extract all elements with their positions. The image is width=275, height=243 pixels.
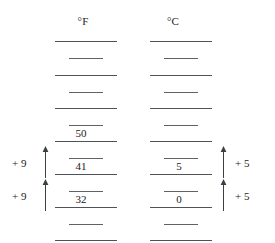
tick-major-celsius-2 [150, 108, 212, 109]
tick-major-fahrenheit-6 [55, 240, 117, 241]
step-label-left-1: + 9 [12, 191, 26, 202]
tick-minor-fahrenheit-3 [69, 158, 103, 159]
step-arrow-right-0 [219, 146, 228, 178]
tick-major-celsius-5 [150, 207, 212, 208]
value-label-fahrenheit-41: 41 [61, 161, 101, 172]
step-arrow-left-0 [41, 146, 50, 178]
tick-minor-celsius-4 [164, 191, 198, 192]
tick-minor-celsius-0 [164, 58, 198, 59]
tick-minor-fahrenheit-0 [69, 58, 103, 59]
tick-major-fahrenheit-5 [55, 207, 117, 208]
tick-major-celsius-3 [150, 141, 212, 142]
tick-minor-fahrenheit-4 [69, 191, 103, 192]
value-label-fahrenheit-50: 50 [61, 128, 101, 139]
tick-minor-celsius-1 [164, 92, 198, 93]
value-label-celsius-5: 5 [159, 161, 199, 172]
step-label-right-0: + 5 [235, 158, 249, 169]
step-arrow-left-1 [41, 179, 50, 211]
tick-major-fahrenheit-1 [55, 75, 117, 76]
tick-major-celsius-0 [150, 41, 212, 42]
tick-minor-fahrenheit-2 [69, 125, 103, 126]
tick-minor-celsius-3 [164, 158, 198, 159]
column-header-celsius: °C [163, 16, 183, 27]
step-label-left-0: + 9 [12, 158, 26, 169]
temperature-scale-figure: °F504132°C50+ 9+ 9+ 5+ 5 [0, 0, 275, 243]
step-arrow-right-1 [219, 179, 228, 211]
tick-major-fahrenheit-2 [55, 108, 117, 109]
column-header-fahrenheit: °F [73, 16, 93, 27]
value-label-celsius-0: 0 [159, 194, 199, 205]
tick-minor-celsius-2 [164, 125, 198, 126]
tick-major-celsius-4 [150, 174, 212, 175]
tick-minor-fahrenheit-1 [69, 92, 103, 93]
value-label-fahrenheit-32: 32 [61, 194, 101, 205]
tick-minor-celsius-5 [164, 224, 198, 225]
tick-major-fahrenheit-0 [55, 41, 117, 42]
tick-major-celsius-6 [150, 240, 212, 241]
step-label-right-1: + 5 [235, 191, 249, 202]
tick-major-fahrenheit-4 [55, 174, 117, 175]
tick-major-celsius-1 [150, 75, 212, 76]
tick-major-fahrenheit-3 [55, 141, 117, 142]
tick-minor-fahrenheit-5 [69, 224, 103, 225]
